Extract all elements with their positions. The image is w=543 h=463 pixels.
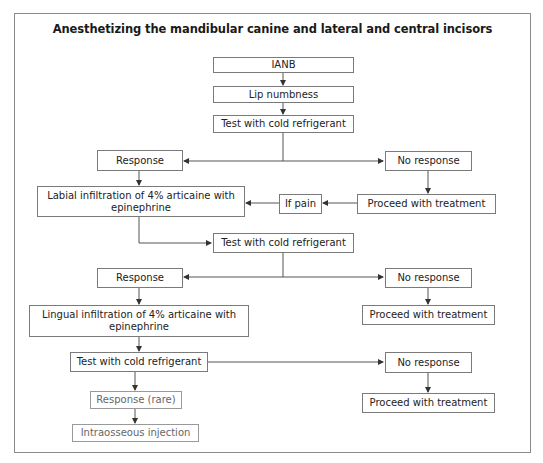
node-response-1: Response	[97, 150, 183, 171]
node-if-pain: If pain	[279, 194, 322, 214]
node-test-cold-3: Test with cold refrigerant	[70, 352, 208, 372]
node-no-response-1: No response	[385, 151, 472, 171]
node-lip-numbness: Lip numbness	[213, 86, 354, 103]
node-proceed-1: Proceed with treatment	[357, 194, 496, 214]
node-test-cold-1: Test with cold refrigerant	[213, 115, 354, 133]
node-lingual-infiltration: Lingual infiltration of 4% articaine wit…	[29, 305, 249, 337]
node-intraosseous-injection: Intraosseous injection	[72, 424, 199, 442]
node-no-response-2: No response	[385, 268, 472, 288]
node-proceed-2: Proceed with treatment	[362, 305, 495, 325]
node-proceed-3: Proceed with treatment	[362, 393, 495, 413]
node-labial-infiltration: Labial infiltration of 4% articaine with…	[37, 186, 245, 217]
node-response-2: Response	[97, 268, 183, 288]
node-no-response-3: No response	[385, 352, 472, 373]
node-test-cold-2: Test with cold refrigerant	[213, 233, 354, 253]
node-ianb: IANB	[213, 57, 354, 73]
node-response-rare: Response (rare)	[90, 391, 182, 409]
